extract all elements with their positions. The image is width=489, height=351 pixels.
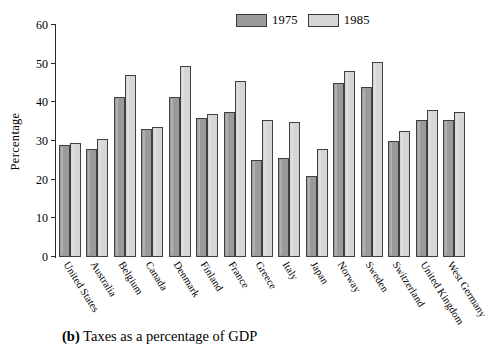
bar-1985 xyxy=(344,71,355,257)
y-axis-title-text: Percentage xyxy=(9,112,24,170)
caption-marker: (b) xyxy=(62,328,80,344)
x-axis-label: West Germany xyxy=(441,259,468,321)
x-axis-label-text: Greece xyxy=(253,260,278,291)
plot-area: 0102030405060 xyxy=(56,25,468,257)
bar-groups xyxy=(56,25,468,257)
bar-1985 xyxy=(125,75,136,257)
y-tick-label-10: 10 xyxy=(36,212,48,224)
bar-1975 xyxy=(196,118,207,257)
bar-1975 xyxy=(59,145,70,257)
bar-1975 xyxy=(224,112,235,257)
bar-group xyxy=(221,25,248,257)
bar-1985 xyxy=(372,62,383,257)
bar-1985 xyxy=(289,122,300,257)
bar-1985 xyxy=(180,66,191,257)
y-tick-label-30: 30 xyxy=(36,135,48,147)
x-axis-label: Canada xyxy=(138,259,165,321)
bar-group xyxy=(276,25,303,257)
bar-group xyxy=(166,25,193,257)
bar-1985 xyxy=(70,143,81,257)
bar-1975 xyxy=(278,158,289,257)
bar-1985 xyxy=(207,114,218,257)
bar-1975 xyxy=(251,160,262,257)
bar-group xyxy=(56,25,83,257)
x-axis-label-text: West Germany xyxy=(445,260,488,320)
bar-1975 xyxy=(86,149,97,257)
bar-1975 xyxy=(141,129,152,257)
y-tick-label-40: 40 xyxy=(36,96,48,108)
bar-1985 xyxy=(262,120,273,257)
x-axis-label: Australia xyxy=(83,259,110,321)
x-axis-label: Belgium xyxy=(111,259,138,321)
bar-group xyxy=(138,25,165,257)
x-axis-label: Greece xyxy=(248,259,275,321)
bar-1975 xyxy=(361,87,372,257)
bar-1975 xyxy=(333,83,344,257)
x-axis-label: Sweden xyxy=(358,259,385,321)
x-axis-category-labels: United StatesAustraliaBelgiumCanadaDenma… xyxy=(56,259,468,321)
bar-1975 xyxy=(443,120,454,257)
bar-group xyxy=(111,25,138,257)
bar-1985 xyxy=(399,131,410,257)
bar-1985 xyxy=(97,139,108,257)
y-tick-label-50: 50 xyxy=(36,58,48,70)
cut-off-header-text xyxy=(60,0,300,7)
bar-group xyxy=(331,25,358,257)
x-axis-label: United Kingdom xyxy=(413,259,440,321)
x-axis-label: Switzerland xyxy=(386,259,413,321)
x-axis-label: Finland xyxy=(193,259,220,321)
bar-1985 xyxy=(454,112,465,257)
y-tick-label-0: 0 xyxy=(42,251,48,263)
bar-group xyxy=(386,25,413,257)
bar-1985 xyxy=(427,110,438,257)
bar-group xyxy=(83,25,110,257)
x-axis-label: United States xyxy=(56,259,83,321)
bar-1985 xyxy=(235,81,246,257)
bar-1975 xyxy=(306,176,317,257)
y-tick-label-60: 60 xyxy=(36,19,48,31)
bar-1975 xyxy=(114,97,125,257)
x-axis-label: Denmark xyxy=(166,259,193,321)
bar-group xyxy=(441,25,468,257)
bar-1975 xyxy=(416,120,427,257)
caption-text: Taxes as a percentage of GDP xyxy=(83,328,257,344)
bar-group xyxy=(413,25,440,257)
bar-1985 xyxy=(317,149,328,257)
x-axis-label: Norway xyxy=(331,259,358,321)
y-tick-label-20: 20 xyxy=(36,174,48,186)
bar-1985 xyxy=(152,127,163,257)
x-axis-label: Japan xyxy=(303,259,330,321)
y-axis-title: Percentage xyxy=(8,25,24,257)
x-axis-label-text: Japan xyxy=(308,260,330,286)
bar-group xyxy=(358,25,385,257)
x-axis-label: Italy xyxy=(276,259,303,321)
bar-1975 xyxy=(388,141,399,257)
bar-1975 xyxy=(169,97,180,257)
bar-group xyxy=(248,25,275,257)
x-axis-label-text: France xyxy=(226,260,250,290)
x-axis-label: France xyxy=(221,259,248,321)
bar-group xyxy=(193,25,220,257)
figure-caption: (b) Taxes as a percentage of GDP xyxy=(62,328,257,345)
bar-group xyxy=(303,25,330,257)
x-axis-label-text: Italy xyxy=(281,260,300,282)
